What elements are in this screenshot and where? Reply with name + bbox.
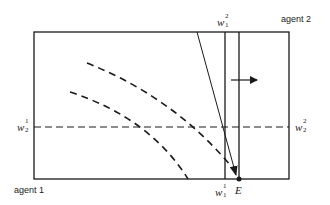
endowment-point bbox=[237, 177, 242, 182]
var-sup: 2 bbox=[303, 118, 307, 125]
var-sup: 2 bbox=[225, 13, 229, 20]
budget-arrow-line bbox=[197, 32, 236, 175]
w1-1-label: w11 bbox=[215, 187, 222, 198]
var-base: w bbox=[217, 16, 224, 28]
agent-1-label: agent 1 bbox=[14, 186, 44, 195]
var-sub: 2 bbox=[303, 127, 307, 134]
var-base: w bbox=[295, 121, 302, 133]
endowment-label: E bbox=[235, 185, 242, 196]
box-outline bbox=[34, 32, 289, 179]
indifference-curve-upper bbox=[87, 63, 239, 176]
w1-2-label: w21 bbox=[217, 17, 224, 28]
var-sup: 1 bbox=[223, 183, 227, 190]
var-sub: 1 bbox=[225, 22, 229, 29]
var-base: w bbox=[17, 121, 24, 133]
var-sub: 1 bbox=[223, 192, 227, 199]
w2-1-label: w12 bbox=[17, 122, 24, 133]
var-base: w bbox=[215, 186, 222, 198]
indifference-curve-lower bbox=[70, 92, 188, 179]
w2-2-label: w22 bbox=[295, 122, 302, 133]
var-sub: 2 bbox=[25, 127, 29, 134]
edgeworth-box-diagram bbox=[0, 0, 330, 205]
agent-2-label: agent 2 bbox=[281, 15, 311, 24]
var-sup: 1 bbox=[25, 118, 29, 125]
